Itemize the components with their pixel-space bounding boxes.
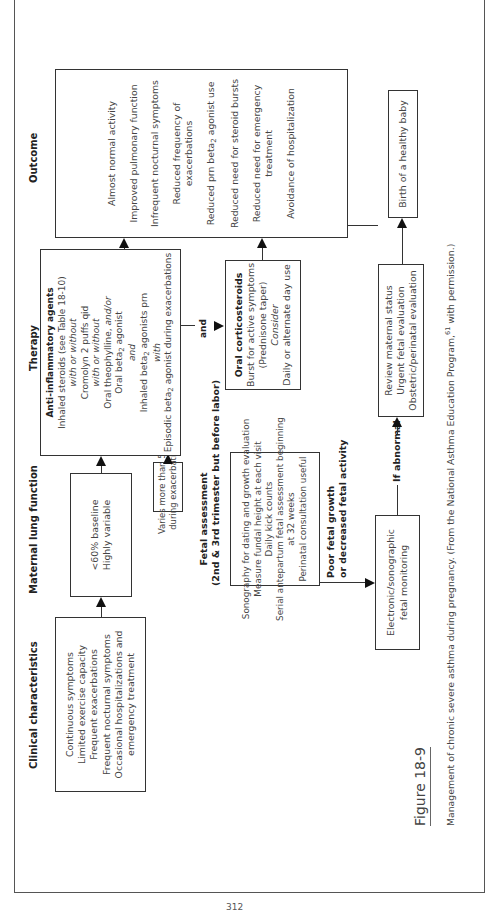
therapy-line: Oral beta2 agonist [114,311,127,393]
therapy-box: Anti-inflammatory agents Inhaled steroid… [40,249,181,456]
clinical-line: Frequent nocturnal symptoms [101,634,113,775]
outcome-item: Avoidance of hospitalization [285,88,297,219]
connector-line [101,607,102,617]
outcome-item: Reduced need for emergencytreatment [251,85,275,222]
arrow-icon [397,218,407,228]
fetal-line: Measure fundal height at each visit [253,441,264,596]
poor-growth-label: Poor fetal growth or decreased fetal act… [325,440,348,578]
arrow-icon [119,238,129,248]
outcome-item: Reduced frequency ofexacerbations [171,103,195,205]
connector-line [262,248,263,260]
fetal-line: Sonography for dating and growth evaluat… [241,419,252,619]
clinical-line: Limited exercise capacity [76,645,88,764]
header-lung: Maternal lung function [28,465,39,594]
oral-title: Oral corticosteroids [233,273,245,378]
lung-line: <60% baseline [89,500,101,571]
connector-line [124,248,125,249]
therapy-line: Oral theophylline, and/or [103,296,115,408]
connector-line [101,466,102,473]
connector-line [402,228,403,264]
therapy-line: and [127,344,139,361]
therapy-line: Inhaled beta2 agonists prn [139,293,152,412]
fetal-line: Serial antepartum fetal assessment begin… [275,417,286,621]
figure-caption: Management of chronic severe asthma duri… [444,244,456,826]
therapy-line: Cromolyn 2 puffs qid [80,306,92,400]
therapy-line: Inhaled steroids (see Table 18-10) [57,276,69,429]
lung-line: Highly variable [101,500,113,571]
oral-corticosteroids-box: Oral corticosteroids Burst for active sy… [225,260,301,390]
outcome-item: Reduced need for steroid bursts [229,79,241,228]
review-box: Review maternal status Urgent fetal eval… [378,264,424,417]
fetal-line: Perinatal consultation useful [298,456,309,581]
electronic-monitoring-box: Electronic/sonographic fetal monitoring [375,515,420,650]
and-label: and [198,319,209,338]
oral-line: Consider [269,304,281,345]
review-line: Obstetric/perinatal evaluation [407,270,419,410]
arrow-icon [257,238,267,248]
electronic-line: Electronic/sonographic [385,529,397,636]
varies-box: Varies more than 50% during exacerbation [153,462,183,512]
connector-line [397,485,398,515]
birth-box: Birth of a healthy baby [388,90,418,218]
review-line: Review maternal status [383,285,395,396]
header-outcome: Outcome [28,133,39,183]
arrow-down-icon [214,321,224,331]
arrow-icon [96,597,106,607]
therapy-title: Anti-inflammatory agents [45,287,57,417]
lung-function-box: <60% baseline Highly variable [70,473,132,597]
arrow-icon [392,417,402,427]
arrow-down-icon [365,578,375,588]
therapy-line: with or without [68,319,80,387]
therapy-line: with or without [91,319,103,387]
connector-line [348,225,378,226]
review-line: Urgent fetal evaluation [395,286,407,394]
clinical-line: Occasional hospitalizations and [113,631,125,779]
arrow-icon [96,456,106,466]
outcome-item: Improved pulmonary function [128,84,140,222]
clinical-line: Continuous symptoms [64,652,76,757]
clinical-line: Frequent exacerbations [88,649,100,760]
fetal-assessment-box: Sonography for dating and growth evaluat… [230,452,320,586]
therapy-line: with [152,343,164,362]
therapy-line: Episodic beta2 agonist during exacerbati… [163,253,176,452]
connector-line [320,582,365,583]
clinical-characteristics-box: Continuous symptoms Limited exercise cap… [55,617,146,792]
oral-line: Daily or alternate day use [281,264,293,386]
clinical-line: emergency treatment [125,653,137,756]
page-number: 312 [226,902,243,912]
figure-label: Figure 18-9 [412,747,431,826]
outcome-item: Infrequent nocturnal symptoms [149,80,161,227]
header-therapy: Therapy [28,325,39,371]
connector-line [397,427,398,434]
fetal-assessment-title: Fetal assessment (2nd & 3rd trimester bu… [198,452,222,586]
outcome-box: Almost normal activity Improved pulmonar… [55,69,348,238]
outcome-item: Reduced prn beta2 agonist use [205,82,219,226]
header-clinical: Clinical characteristics [28,641,39,769]
outcome-item: Almost normal activity [106,101,118,206]
birth-label: Birth of a healthy baby [397,100,409,208]
fetal-line: Daily kick counts [264,482,275,557]
fetal-line: at 32 weeks [286,492,297,545]
oral-line: (Prednisone taper) [257,281,269,368]
connector-line [181,325,195,326]
electronic-line: fetal monitoring [398,545,410,620]
oral-line: Burst for active symptoms [245,263,257,387]
figure-canvas: Clinical characteristics Maternal lung f… [0,0,487,916]
